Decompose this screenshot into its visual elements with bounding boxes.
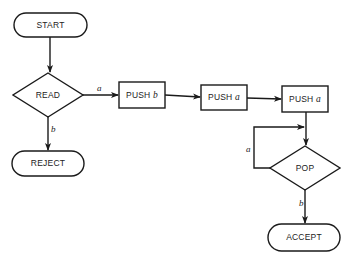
node-reject: REJECT (12, 151, 84, 176)
node-start: START (14, 13, 87, 37)
node-start-label: START (36, 20, 64, 30)
node-push-a-1-label: PUSH a (208, 92, 240, 102)
node-push-a-1: PUSH a (201, 85, 247, 110)
node-push-b: PUSH b (119, 82, 165, 108)
node-reject-label: REJECT (31, 158, 65, 168)
node-push-b-label: PUSH b (126, 90, 158, 100)
node-read-label: READ (36, 90, 60, 100)
node-push-a-2: PUSH a (282, 86, 328, 112)
edge-label-read-a: a (97, 83, 102, 93)
node-pop-label: POP (296, 163, 315, 173)
edge-push-b-push-a (165, 95, 200, 97)
edge-label-read-b: b (51, 124, 56, 134)
node-pop: POP (270, 146, 340, 190)
flowchart-canvas: a b a b START READ REJECT PUSH b PUSH a … (0, 0, 356, 261)
edge-label-pop-b: b (299, 198, 304, 208)
node-accept-label: ACCEPT (286, 232, 322, 242)
edge-label-pop-a: a (246, 144, 251, 154)
node-push-a-2-label: PUSH a (289, 94, 321, 104)
node-read: READ (13, 73, 83, 117)
edge-push-a-push-a (247, 98, 281, 99)
node-accept: ACCEPT (268, 224, 340, 251)
